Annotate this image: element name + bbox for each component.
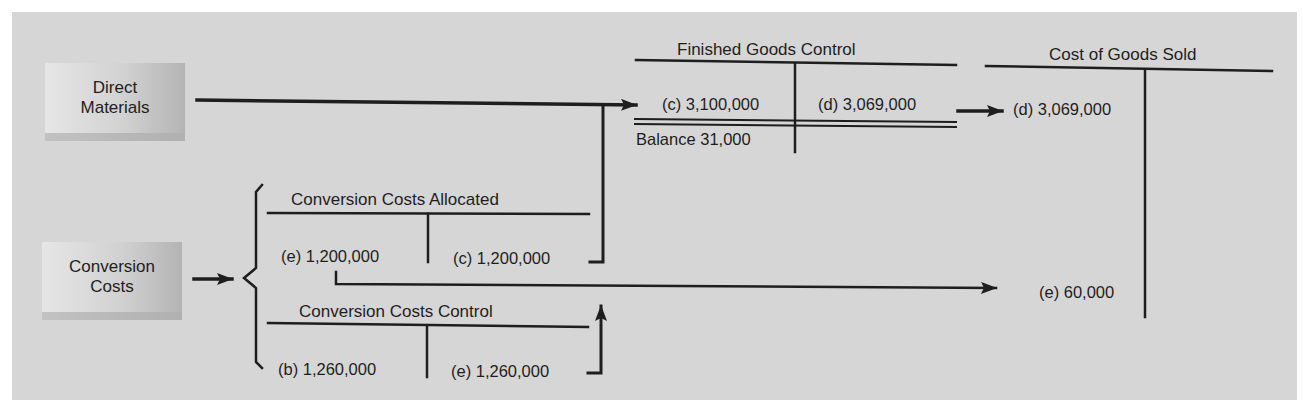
conversion-costs-allocated-debit: (e) 1,200,000 xyxy=(281,247,379,266)
cogs-debit-d: (d) 3,069,000 xyxy=(1013,100,1111,119)
conversion-costs-allocated-title: Conversion Costs Allocated xyxy=(291,190,499,210)
finished-goods-debit: (c) 3,100,000 xyxy=(662,95,759,114)
cogs-debit-e: (e) 60,000 xyxy=(1039,283,1114,302)
conversion-costs-allocated-credit: (c) 1,200,000 xyxy=(453,249,550,268)
finished-goods-credit: (d) 3,069,000 xyxy=(818,95,916,114)
conversion-costs-control-debit: (b) 1,260,000 xyxy=(278,360,376,379)
conversion-costs-control-credit: (e) 1,260,000 xyxy=(451,362,549,381)
cost-of-goods-sold-title: Cost of Goods Sold xyxy=(1049,45,1196,65)
finished-goods-balance: Balance 31,000 xyxy=(636,130,751,149)
direct-materials-arrow xyxy=(197,100,636,105)
finished-goods-control-title: Finished Goods Control xyxy=(677,40,856,60)
conversion-costs-control-title: Conversion Costs Control xyxy=(299,302,493,322)
